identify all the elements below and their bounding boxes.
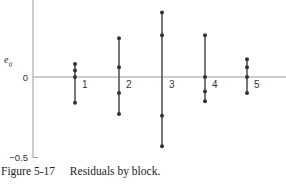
y-tick-label: 0 — [23, 72, 28, 83]
block-label: 2 — [126, 79, 132, 90]
residual-point — [117, 112, 121, 116]
residual-point — [203, 33, 207, 37]
residual-point — [203, 99, 207, 103]
residuals-chart: 0.50−0.5eij 12345 — [0, 0, 286, 165]
y-tick-label: 0.5 — [15, 0, 28, 2]
block-1-residuals: 1 — [73, 62, 88, 105]
y-tick-label: −0.5 — [9, 152, 28, 163]
block-4-residuals: 4 — [203, 33, 218, 103]
y-axis-label: eij — [4, 54, 12, 68]
residual-point — [245, 57, 249, 61]
figure-number: Figure 5-17 — [1, 165, 55, 177]
block-label: 1 — [82, 79, 88, 90]
residual-point — [245, 91, 249, 95]
residual-point — [117, 65, 121, 69]
caption-text: Residuals by block. — [70, 165, 160, 177]
residual-point — [73, 101, 77, 105]
data-series: 12345 — [73, 11, 260, 149]
block-2-residuals: 2 — [117, 36, 132, 116]
axes: 0.50−0.5eij — [4, 0, 286, 163]
residual-point — [73, 75, 77, 79]
residual-point — [73, 69, 77, 73]
block-label: 4 — [212, 79, 218, 90]
residual-point — [245, 75, 249, 79]
residual-point — [160, 33, 164, 37]
block-3-residuals: 3 — [160, 11, 175, 149]
residual-point — [203, 75, 207, 79]
residual-point — [160, 11, 164, 15]
residual-point — [117, 36, 121, 40]
residual-point — [245, 65, 249, 69]
block-label: 3 — [169, 79, 175, 90]
block-5-residuals: 5 — [245, 57, 260, 95]
residual-point — [203, 89, 207, 93]
residual-point — [160, 144, 164, 148]
residual-point — [73, 62, 77, 66]
residual-point — [117, 91, 121, 95]
residual-point — [160, 114, 164, 118]
block-label: 5 — [254, 79, 260, 90]
figure-caption: Figure 5-17 Residuals by block. — [1, 165, 160, 177]
